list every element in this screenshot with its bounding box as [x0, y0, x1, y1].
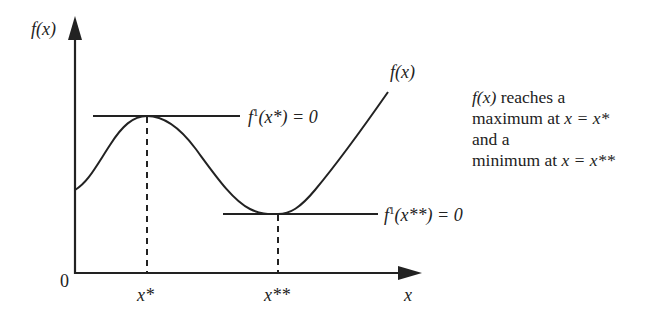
origin-label: 0: [60, 272, 69, 290]
note-line-1: f(x) reaches a: [472, 87, 615, 108]
x-star-tick-label: x*: [137, 286, 154, 304]
y-axis-label: f(x): [31, 20, 56, 38]
x-axis-label: x: [404, 286, 412, 304]
note-line-3: and a: [472, 129, 615, 150]
x-axis-arrow-icon: [398, 266, 422, 280]
min-tangent-arg: (x**) = 0: [395, 205, 463, 225]
note-line-2: maximum at x = x*: [472, 108, 615, 129]
note-line-4-prefix: minimum at: [472, 150, 561, 170]
note-fx: f(x): [472, 87, 496, 107]
min-tangent-label: f1(x**) = 0: [384, 205, 463, 224]
max-tangent-label: f1(x*) = 0: [248, 107, 318, 126]
note-line-4: minimum at x = x**: [472, 150, 615, 171]
note-line-2-prefix: maximum at: [472, 108, 564, 128]
x-double-star-tick-label: x**: [264, 286, 290, 304]
note-line-1-rest: reaches a: [496, 87, 565, 107]
function-curve: [75, 92, 388, 214]
max-tangent-arg: (x*) = 0: [259, 107, 318, 127]
explanation-note: f(x) reaches a maximum at x = x* and a m…: [472, 87, 615, 171]
y-axis-arrow-icon: [68, 16, 82, 40]
y-axis-label-text: f(x): [31, 19, 56, 39]
note-line-4-math: x = x**: [561, 150, 615, 170]
note-line-2-math: x = x*: [564, 108, 609, 128]
curve-label: f(x): [390, 63, 415, 81]
